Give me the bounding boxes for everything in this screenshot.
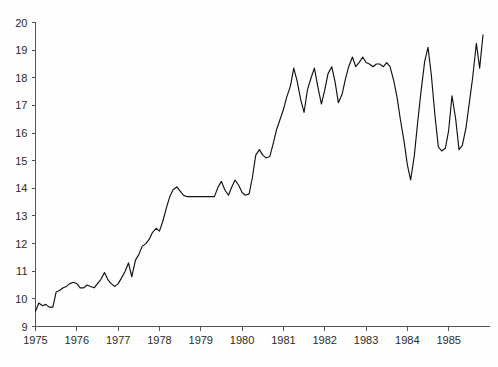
x-tick-label: 1977 [106,334,130,346]
x-axis-ticks [36,327,449,331]
y-tick-label: 15 [15,155,27,167]
x-tick-label: 1980 [230,334,254,346]
line-chart-figure: 91011121314151617181920 1975197619771978… [0,0,498,367]
y-axis-ticks [32,23,36,327]
data-line-series-1 [36,35,483,311]
y-tick-label: 19 [15,44,27,56]
x-tick-label: 1983 [354,334,378,346]
x-tick-label: 1984 [395,334,419,346]
x-tick-label: 1979 [189,334,213,346]
data-series-group [36,35,483,311]
y-tick-label: 20 [15,17,27,29]
x-tick-label: 1985 [436,334,460,346]
y-tick-label: 13 [15,210,27,222]
y-tick-label: 16 [15,127,27,139]
chart-plot-area: 91011121314151617181920 1975197619771978… [0,0,498,367]
y-tick-label: 14 [15,182,27,194]
y-tick-label: 17 [15,99,27,111]
x-tick-label: 1981 [271,334,295,346]
y-tick-label: 10 [15,293,27,305]
x-tick-label: 1975 [23,334,47,346]
y-tick-label: 11 [16,265,27,277]
x-axis: 1975197619771978197919801981198219831984… [23,327,490,346]
y-tick-label: 12 [15,238,27,250]
x-tick-label: 1978 [147,334,171,346]
x-tick-label: 1982 [312,334,336,346]
y-tick-label: 18 [15,72,27,84]
x-tick-label: 1976 [65,334,89,346]
x-axis-tick-labels: 1975197619771978197919801981198219831984… [23,334,461,346]
y-tick-label: 9 [21,321,27,333]
y-axis: 91011121314151617181920 [15,17,35,333]
y-axis-tick-labels: 91011121314151617181920 [15,17,27,333]
